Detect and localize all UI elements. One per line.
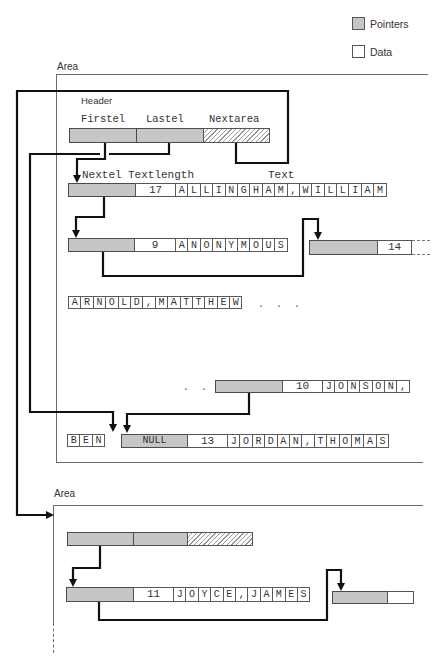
arrow-down-icon	[337, 583, 345, 591]
text-cell: M	[272, 587, 285, 602]
text-cell: C	[210, 587, 223, 602]
area-1-frame-left	[56, 74, 57, 463]
text-cell: W	[229, 296, 242, 309]
text-cell: N	[187, 238, 200, 252]
text-cell: H	[326, 434, 339, 448]
text-cell: D	[130, 296, 143, 309]
header-nextarea-pointer	[203, 128, 270, 143]
nextel-pointer	[68, 183, 136, 197]
text-cell: N	[92, 434, 105, 447]
text-cell: J	[227, 434, 240, 448]
text-cell: S	[297, 587, 310, 602]
text-cell: J	[247, 587, 260, 602]
legend-data-label: Data	[370, 46, 392, 58]
text-cell: A	[277, 434, 290, 448]
text-cell: N	[384, 380, 397, 393]
arrow-down-icon	[73, 175, 81, 183]
text-cell: N	[212, 238, 225, 252]
text-cell: D	[264, 434, 277, 448]
text-cells: ALLINGHAM,WILLIAM	[175, 183, 387, 197]
arrow-down-icon	[69, 579, 77, 587]
text-cell: I	[212, 183, 225, 197]
text-cell: A	[262, 183, 275, 197]
arrow-down-icon	[109, 424, 117, 432]
firstel-label: Firstel	[81, 113, 125, 125]
nextel-pointer	[68, 238, 135, 252]
text-cell: M	[351, 434, 364, 448]
textlength-field-label: Textlength	[128, 169, 194, 181]
text-cells: JONSON,	[322, 380, 410, 393]
text-cell: O	[200, 238, 213, 252]
textlength-value: 11	[133, 587, 174, 602]
text-cell: O	[239, 434, 252, 448]
continuation-dash-bottom	[412, 254, 430, 255]
legend-pointers-swatch	[352, 17, 365, 30]
text-cell: Y	[225, 238, 238, 252]
text-cell: A	[361, 183, 374, 197]
text-cells: JORDAN,THOMAS	[227, 434, 389, 448]
text-cell: N	[289, 434, 302, 448]
text-cell: T	[192, 296, 205, 309]
text-cells: JOYCE,JAMES	[173, 587, 310, 602]
text-cell: W	[299, 183, 312, 197]
text-cell: M	[237, 238, 250, 252]
text-cell: A	[68, 296, 81, 309]
text-cell: O	[372, 380, 385, 393]
text-cell: L	[324, 183, 337, 197]
header-nextarea-pointer	[187, 532, 253, 546]
arrow-down-icon	[123, 425, 131, 433]
text-cell: J	[322, 380, 335, 393]
text-cell: I	[348, 183, 361, 197]
text-cell: ,	[235, 587, 248, 602]
text-cell: L	[187, 183, 200, 197]
textlength-value: 9	[134, 238, 176, 252]
nextel-pointer	[332, 591, 388, 604]
text-cell: A	[167, 296, 180, 309]
ellipsis: . . .	[258, 299, 303, 310]
continuation-dash-top	[412, 240, 430, 241]
textlength-value: 14	[377, 240, 412, 255]
text-cell: L	[200, 183, 213, 197]
text-cell: N	[225, 183, 238, 197]
text-cell: S	[359, 380, 372, 393]
text-cell: A	[363, 434, 376, 448]
area-1-frame-bottom	[56, 462, 423, 463]
nextel-pointer	[215, 380, 283, 393]
nextel-field-label: Nextel	[82, 169, 122, 181]
text-cell: M	[155, 296, 168, 309]
text-cell: U	[262, 238, 275, 252]
header-label: Header	[81, 95, 112, 106]
nextarea-label: Nextarea	[209, 113, 259, 125]
arrow-down-icon	[72, 230, 80, 238]
text-cell: G	[237, 183, 250, 197]
text-cell: H	[204, 296, 217, 309]
jonson-nextel-link	[127, 393, 249, 426]
allingham-nextel-link	[76, 197, 104, 231]
area-2-label: Area	[54, 488, 75, 499]
text-cell: A	[260, 587, 273, 602]
area-1-frame-top	[56, 74, 428, 75]
text-cell: B	[67, 434, 80, 447]
text-cell: N	[93, 296, 106, 309]
legend-data-swatch	[352, 45, 365, 58]
area-2-frame-left	[53, 505, 54, 623]
text-cell: O	[334, 380, 347, 393]
text-cell: A	[175, 183, 188, 197]
text-cell: M	[373, 183, 386, 197]
area-1-label: Area	[57, 61, 78, 72]
text-cell: S	[274, 238, 287, 252]
text-cell: S	[376, 434, 389, 448]
text-field-label: Text	[268, 169, 294, 181]
text-cells: ANONYMOUS	[175, 238, 288, 252]
text-cell: O	[105, 296, 118, 309]
pointer-links	[0, 0, 439, 666]
text-cell: O	[185, 587, 198, 602]
text-cell: R	[252, 434, 265, 448]
lastel-link-a	[109, 143, 169, 154]
text-cells: BEN	[67, 434, 105, 447]
area2-firstel-link	[73, 546, 100, 580]
arrow-down-icon	[314, 232, 322, 240]
lastel-label: Lastel	[146, 113, 184, 125]
nextel-pointer	[309, 240, 378, 255]
text-cell: N	[347, 380, 360, 393]
